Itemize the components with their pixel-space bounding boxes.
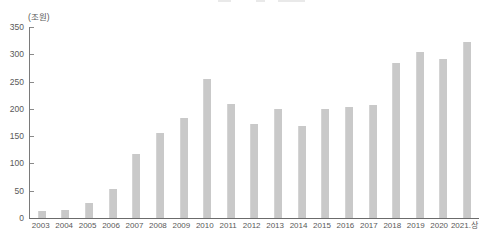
bar-slot-2015 xyxy=(314,27,338,218)
x-tick-label-2006: 2006 xyxy=(99,222,122,230)
bar-2011 xyxy=(227,104,235,218)
bar-2008 xyxy=(156,133,164,218)
bar-2009 xyxy=(180,118,188,218)
x-tick-label-2005: 2005 xyxy=(76,222,99,230)
x-tick-label-2004: 2004 xyxy=(52,222,75,230)
bar-slot-2013 xyxy=(266,27,290,218)
bar-slot-2011 xyxy=(219,27,243,218)
x-tick-label-2011: 2011 xyxy=(217,222,240,230)
bar-2005 xyxy=(85,203,93,218)
bar-2015 xyxy=(321,109,329,218)
bar-slot-2014 xyxy=(290,27,314,218)
bar-slot-2017 xyxy=(361,27,385,218)
bar-slot-2016 xyxy=(337,27,361,218)
bar-slot-2004 xyxy=(54,27,78,218)
bar-slot-2021.상 xyxy=(455,27,479,218)
x-tick-label-2010: 2010 xyxy=(193,222,216,230)
x-tick-label-2014: 2014 xyxy=(287,222,310,230)
bar-slot-2018 xyxy=(384,27,408,218)
bar-2020 xyxy=(439,59,447,218)
y-tick-label-0: 0 xyxy=(19,214,24,223)
x-tick-label-2012: 2012 xyxy=(240,222,263,230)
bar-2016 xyxy=(345,107,353,218)
x-axis-tick-labels: 2003200420052006200720082009201020112012… xyxy=(29,222,478,230)
y-tick-mark-150 xyxy=(30,136,34,137)
bar-slot-2008 xyxy=(148,27,172,218)
x-tick-label-2019: 2019 xyxy=(404,222,427,230)
y-tick-mark-250 xyxy=(30,82,34,83)
bar-slot-2020 xyxy=(432,27,456,218)
y-tick-label-250: 250 xyxy=(10,77,24,86)
bar-chart: (조원) 050100150200250300350 2003200420052… xyxy=(0,0,482,236)
bars-container xyxy=(30,27,479,218)
bar-2017 xyxy=(369,105,377,218)
y-tick-label-100: 100 xyxy=(10,159,24,168)
y-tick-label-200: 200 xyxy=(10,105,24,114)
bar-slot-2007 xyxy=(125,27,149,218)
y-axis-tick-labels: 050100150200250300350 xyxy=(0,27,24,218)
bar-slot-2003 xyxy=(30,27,54,218)
y-tick-mark-300 xyxy=(30,54,34,55)
y-tick-label-50: 50 xyxy=(15,186,24,195)
x-tick-label-2008: 2008 xyxy=(146,222,169,230)
x-tick-label-2009: 2009 xyxy=(170,222,193,230)
cropped-title-artifact xyxy=(218,0,231,2)
bar-2012 xyxy=(250,124,258,218)
y-tick-label-150: 150 xyxy=(10,132,24,141)
bar-2018 xyxy=(392,63,400,218)
x-tick-label-2020: 2020 xyxy=(427,222,450,230)
y-tick-label-350: 350 xyxy=(10,23,24,32)
bar-slot-2012 xyxy=(243,27,267,218)
x-tick-label-2017: 2017 xyxy=(357,222,380,230)
bar-slot-2019 xyxy=(408,27,432,218)
x-tick-label-2016: 2016 xyxy=(334,222,357,230)
bar-slot-2005 xyxy=(77,27,101,218)
y-tick-mark-200 xyxy=(30,109,34,110)
bar-2004 xyxy=(61,210,69,218)
x-tick-label-2015: 2015 xyxy=(310,222,333,230)
y-tick-mark-50 xyxy=(30,191,34,192)
bar-2019 xyxy=(416,52,424,218)
x-tick-label-2021.상: 2021.상 xyxy=(451,222,478,230)
y-tick-mark-350 xyxy=(30,27,34,28)
y-axis-unit-label: (조원) xyxy=(28,10,50,22)
x-tick-label-2003: 2003 xyxy=(29,222,52,230)
bar-2007 xyxy=(132,154,140,218)
bar-2021.상 xyxy=(463,42,471,218)
plot-area xyxy=(29,27,479,219)
cropped-title-artifact xyxy=(278,0,305,2)
x-tick-label-2018: 2018 xyxy=(381,222,404,230)
bar-slot-2009 xyxy=(172,27,196,218)
bar-slot-2010 xyxy=(195,27,219,218)
bar-2006 xyxy=(109,189,117,219)
cropped-title-artifact xyxy=(256,0,265,2)
x-tick-label-2007: 2007 xyxy=(123,222,146,230)
y-tick-label-300: 300 xyxy=(10,50,24,59)
bar-2013 xyxy=(274,109,282,218)
bar-2010 xyxy=(203,79,211,218)
bar-2014 xyxy=(298,126,306,218)
bar-slot-2006 xyxy=(101,27,125,218)
y-tick-mark-100 xyxy=(30,163,34,164)
x-tick-label-2013: 2013 xyxy=(263,222,286,230)
bar-2003 xyxy=(38,211,46,218)
